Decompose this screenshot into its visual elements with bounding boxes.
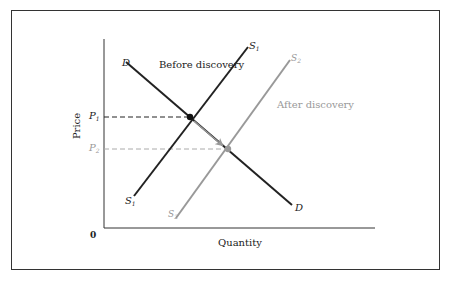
s1-label-top: S1: [249, 41, 260, 52]
y-axis-label: Price: [72, 113, 82, 139]
p1-label: P1: [89, 111, 100, 122]
equilibrium-after: [225, 146, 231, 152]
before-discovery-label: Before discovery: [159, 60, 244, 70]
demand-label-bottom: D: [295, 203, 303, 213]
p1-sub: 1: [96, 115, 100, 122]
demand-label-top: D: [122, 58, 130, 68]
s2-label-top: S2: [291, 54, 301, 64]
s1-bottom-sub: 1: [132, 200, 136, 207]
p2-label: P2: [89, 143, 100, 154]
s1-top-sub: 1: [256, 45, 260, 52]
supply-curve-s2: [176, 60, 290, 218]
x-axis-label: Quantity: [218, 238, 262, 248]
s2-bottom-sub: 2: [174, 213, 178, 220]
s1-bottom-text: S: [125, 195, 132, 206]
origin-label: 0: [90, 231, 96, 240]
p2-sub: 2: [96, 147, 100, 154]
s2-label-bottom: S2: [168, 210, 178, 220]
s1-top-text: S: [249, 40, 256, 51]
equilibrium-before: [187, 114, 193, 120]
shift-arrow: [194, 121, 222, 145]
p2-text: P: [89, 142, 96, 153]
p1-text: P: [89, 110, 96, 121]
s2-top-sub: 2: [297, 57, 301, 64]
after-discovery-label: After discovery: [277, 100, 354, 110]
s1-label-bottom: S1: [125, 196, 136, 207]
